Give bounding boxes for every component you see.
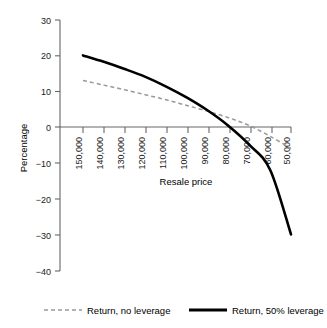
x-tick-label: 110,000 bbox=[158, 137, 168, 169]
legend-label-no-leverage: Return, no leverage bbox=[87, 305, 170, 316]
y-tick-label: 20 bbox=[41, 51, 51, 61]
y-tick-label: 30 bbox=[41, 16, 51, 26]
x-tick-label: 140,000 bbox=[95, 137, 105, 170]
chart-svg: 30 20 10 0 −10 −20 −30 −40 Percentage bbox=[0, 0, 327, 328]
x-tick-label: 50,000 bbox=[282, 137, 292, 165]
x-tick-label: 120,000 bbox=[137, 137, 147, 170]
y-tick-label: 10 bbox=[41, 87, 51, 97]
y-axis-title: Percentage bbox=[18, 124, 29, 173]
y-tick-label: −30 bbox=[36, 231, 51, 241]
x-axis-title: Resale price bbox=[160, 176, 213, 187]
y-tick-label: −40 bbox=[36, 267, 51, 277]
x-tick-label: 150,000 bbox=[74, 137, 84, 170]
y-tick-label: −20 bbox=[36, 195, 51, 205]
x-tick-label: 130,000 bbox=[116, 137, 126, 170]
legend-label-50pct-leverage: Return, 50% leverage bbox=[232, 305, 324, 316]
y-tick-label: −10 bbox=[36, 159, 51, 169]
y-tick-label: 0 bbox=[46, 123, 51, 133]
x-tick-label: 80,000 bbox=[221, 137, 231, 165]
chart-container: 30 20 10 0 −10 −20 −30 −40 Percentage bbox=[0, 0, 327, 328]
x-tick-label: 90,000 bbox=[200, 137, 210, 165]
x-tick-label: 100,000 bbox=[179, 137, 189, 170]
